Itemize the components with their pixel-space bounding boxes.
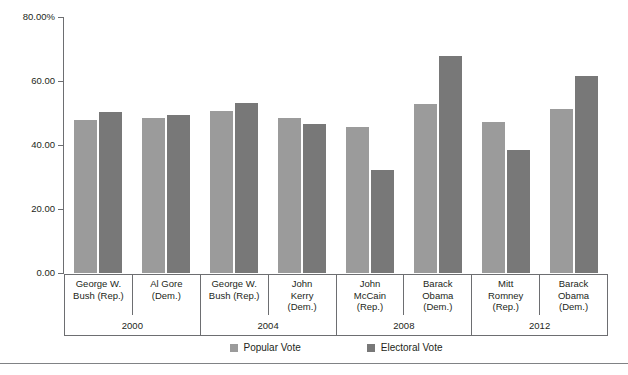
y-axis-tick-label-text: 80.00%: [1, 12, 55, 22]
year-label-cell: 2000: [65, 315, 201, 336]
bar-electoral-vote: [99, 112, 122, 273]
y-axis-tick-label: 60.00: [0, 76, 55, 86]
bar-popular-vote: [74, 120, 97, 273]
legend-item[interactable]: Popular Vote: [230, 342, 301, 354]
candidate-label-line: Romney: [488, 290, 523, 302]
bar-electoral-vote: [167, 115, 190, 273]
chart-legend: Popular VoteElectoral Vote: [64, 341, 608, 355]
bar-electoral-vote: [439, 56, 462, 273]
candidate-label-cell: BarackObama(Dem.): [540, 275, 607, 315]
legend-item[interactable]: Electoral Vote: [367, 342, 443, 354]
plot-wrapper: 0.0020.0040.0060.0080.00%: [0, 0, 628, 278]
bar-popular-vote: [414, 104, 437, 273]
candidate-label-line: McCain: [354, 290, 386, 302]
candidate-label-line: (Dem.): [150, 290, 182, 302]
bar-popular-vote: [482, 122, 505, 273]
candidate-label-line: (Dem.): [288, 301, 317, 313]
candidate-label-line: Kerry: [288, 290, 317, 302]
x-axis-label-table: George W.Bush (Rep.)Al Gore(Dem.)George …: [64, 274, 608, 336]
y-axis-tick-label: 80.00%: [0, 12, 55, 22]
candidate-label-line: (Dem.): [422, 301, 453, 313]
y-axis-tick-label: 0.00: [0, 268, 55, 278]
candidate-label-cell: BarackObama(Dem.): [404, 275, 472, 315]
candidate-label-line: Bush (Rep.): [209, 290, 260, 302]
candidate-label-cell: MittRomney(Rep.): [472, 275, 540, 315]
y-axis-tick-label: 40.00: [0, 140, 55, 150]
bar-electoral-vote: [235, 103, 258, 273]
bar-group: [200, 17, 268, 273]
bar-electoral-vote: [507, 150, 530, 273]
year-label-row: 2000200420082012: [65, 315, 607, 336]
bar-popular-vote: [210, 111, 233, 273]
year-label-cell: 2008: [337, 315, 473, 336]
candidate-label-line: Bush (Rep.): [73, 290, 124, 302]
y-axis-tick-label-text: 20.00: [1, 204, 55, 214]
year-label-cell: 2012: [472, 315, 607, 336]
candidate-label-row: George W.Bush (Rep.)Al Gore(Dem.)George …: [65, 275, 607, 315]
candidate-label-line: Barack: [422, 278, 453, 290]
legend-swatch-icon: [367, 344, 375, 352]
candidate-label-line: Mitt: [488, 278, 523, 290]
bar-group: [540, 17, 608, 273]
bar-group: [64, 17, 132, 273]
bar-popular-vote: [550, 109, 573, 273]
candidate-label-line: George W.: [73, 278, 124, 290]
candidate-label-line: Obama: [558, 290, 589, 302]
candidate-label-cell: JohnKerry(Dem.): [269, 275, 337, 315]
candidate-label-cell: George W.Bush (Rep.): [201, 275, 269, 315]
bar-group: [404, 17, 472, 273]
bar-popular-vote: [278, 118, 301, 273]
bar-chart: 0.0020.0040.0060.0080.00% George W.Bush …: [0, 0, 628, 375]
candidate-label-line: (Rep.): [354, 301, 386, 313]
y-axis-tick-label: 20.00: [0, 204, 55, 214]
candidate-label-line: Barack: [558, 278, 589, 290]
y-axis-tick-label-text: 60.00: [1, 76, 55, 86]
legend-label: Electoral Vote: [381, 342, 443, 354]
bar-electoral-vote: [575, 76, 598, 273]
candidate-label-cell: Al Gore(Dem.): [133, 275, 201, 315]
bar-popular-vote: [346, 127, 369, 273]
y-axis-tick-label-text: 40.00: [1, 140, 55, 150]
candidate-label-line: George W.: [209, 278, 260, 290]
bar-group: [268, 17, 336, 273]
legend-label: Popular Vote: [244, 342, 301, 354]
legend-swatch-icon: [230, 344, 238, 352]
candidate-label-line: John: [354, 278, 386, 290]
year-label-cell: 2004: [201, 315, 337, 336]
bar-group: [132, 17, 200, 273]
candidate-label-cell: George W.Bush (Rep.): [65, 275, 133, 315]
bar-popular-vote: [142, 118, 165, 273]
candidate-label-line: Obama: [422, 290, 453, 302]
bar-electoral-vote: [303, 124, 326, 273]
candidate-label-line: Al Gore: [150, 278, 182, 290]
candidate-label-line: John: [288, 278, 317, 290]
candidate-label-line: (Rep.): [488, 301, 523, 313]
y-axis-tick-label-text: 0.00: [1, 268, 55, 278]
bar-electoral-vote: [371, 170, 394, 273]
candidate-label-line: (Dem.): [558, 301, 589, 313]
bar-group: [336, 17, 404, 273]
plot-area: [64, 17, 608, 273]
bar-group: [472, 17, 540, 273]
bottom-divider: [0, 363, 628, 364]
candidate-label-cell: JohnMcCain(Rep.): [337, 275, 405, 315]
